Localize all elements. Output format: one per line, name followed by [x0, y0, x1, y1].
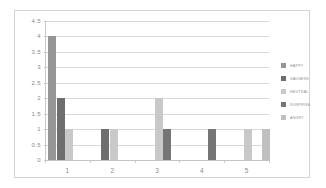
gridline: [45, 160, 269, 161]
y-axis-tick-label: 1.5: [31, 111, 41, 117]
legend-item-angry[interactable]: ANGRY: [281, 111, 326, 124]
gridline: [45, 67, 269, 68]
legend-item-label: HAPPY: [290, 64, 303, 68]
bar[interactable]: [48, 36, 56, 160]
legend-item-sadness[interactable]: SADNESS: [281, 72, 326, 85]
x-axis-tick: [90, 160, 91, 163]
x-axis-tick-label: 4: [200, 167, 204, 174]
x-axis-tick-label: 3: [155, 167, 159, 174]
legend-item-label: SADNESS: [290, 77, 309, 81]
bar[interactable]: [163, 129, 171, 160]
y-axis-tick-label: 4.5: [31, 18, 41, 24]
bar[interactable]: [244, 129, 252, 160]
y-axis-tick-label: 3.5: [31, 49, 41, 55]
y-axis-tick-label: 4: [37, 33, 41, 39]
legend-item-surprise[interactable]: SURPRISE: [281, 98, 326, 111]
x-axis-tick: [179, 160, 180, 163]
legend-swatch-icon: [281, 63, 286, 68]
plot-area: 00.511.522.533.544.5 12345: [45, 21, 269, 160]
legend-item-label: NEUTRAL: [290, 90, 309, 94]
legend-item-label: ANGRY: [290, 116, 304, 120]
gridline: [45, 21, 269, 22]
gridline: [45, 83, 269, 84]
legend-swatch-icon: [281, 115, 286, 120]
x-axis-tick: [135, 160, 136, 163]
bar[interactable]: [155, 98, 163, 160]
bar[interactable]: [65, 129, 73, 160]
y-axis-tick-label: 2: [37, 95, 41, 101]
x-axis-tick-label: 2: [110, 167, 114, 174]
x-axis-tick: [269, 160, 270, 163]
x-axis-tick-label: 5: [245, 167, 249, 174]
bar[interactable]: [101, 129, 109, 160]
legend-swatch-icon: [281, 76, 286, 81]
y-axis-tick-label: 1: [37, 126, 41, 132]
bar[interactable]: [262, 129, 270, 160]
chart-legend: HAPPYSADNESSNEUTRALSURPRISEANGRY: [281, 59, 326, 124]
y-axis-line: [45, 21, 46, 160]
x-axis-tick: [224, 160, 225, 163]
x-axis-tick: [45, 160, 46, 163]
y-axis-tick-label: 3: [37, 64, 41, 70]
y-axis-tick-label: 0.5: [31, 142, 41, 148]
legend-swatch-icon: [281, 89, 286, 94]
bar[interactable]: [110, 129, 118, 160]
gridline: [45, 36, 269, 37]
x-axis-tick-label: 1: [66, 167, 70, 174]
chart-frame: 00.511.522.533.544.5 12345 HAPPYSADNESSN…: [14, 10, 310, 178]
legend-item-label: SURPRISE: [290, 103, 310, 107]
legend-item-happy[interactable]: HAPPY: [281, 59, 326, 72]
y-axis-tick-label: 0: [37, 157, 41, 163]
legend-item-neutral[interactable]: NEUTRAL: [281, 85, 326, 98]
bar[interactable]: [208, 129, 216, 160]
bar[interactable]: [57, 98, 65, 160]
y-axis-tick-label: 2.5: [31, 80, 41, 86]
legend-swatch-icon: [281, 102, 286, 107]
gridline: [45, 52, 269, 53]
